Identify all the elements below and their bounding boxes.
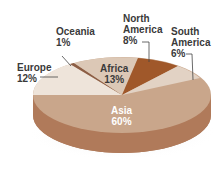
label-pct: 6% <box>171 48 210 59</box>
label-text: Oceania <box>56 26 95 37</box>
label-text: Africa <box>100 63 128 74</box>
label-pct: 8% <box>123 35 162 46</box>
label-text: North <box>123 13 162 24</box>
label-north-america: North America 8% <box>123 13 162 46</box>
label-south-america: South America 6% <box>171 26 210 59</box>
label-africa: Africa 13% <box>100 63 128 85</box>
label-text: South <box>171 26 210 37</box>
label-oceania: Oceania 1% <box>56 26 95 48</box>
label-pct: 60% <box>111 116 132 127</box>
leader-oceania <box>62 56 71 66</box>
label-asia: Asia 60% <box>111 105 132 127</box>
label-text: America <box>123 24 162 35</box>
label-pct: 1% <box>56 37 95 48</box>
label-europe: Europe 12% <box>17 62 51 84</box>
label-text: Asia <box>111 105 132 116</box>
label-pct: 12% <box>17 73 51 84</box>
label-text: Europe <box>17 62 51 73</box>
label-text: America <box>171 37 210 48</box>
label-pct: 13% <box>100 74 128 85</box>
